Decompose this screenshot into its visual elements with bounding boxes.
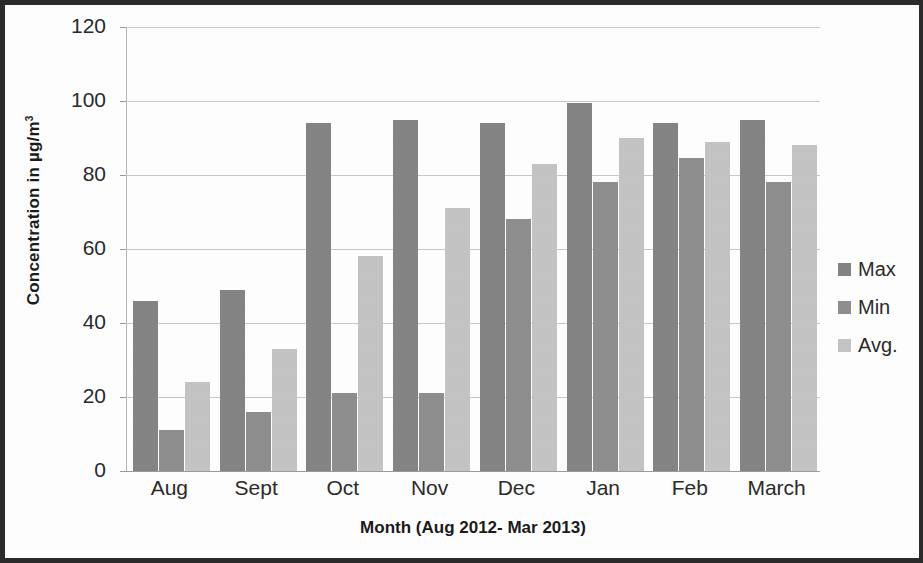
x-axis-tick-label-sept: Sept <box>213 476 300 500</box>
legend-item-min[interactable]: Min <box>838 288 918 326</box>
bar-feb-min[interactable] <box>679 158 704 471</box>
figure-border-top <box>0 0 923 5</box>
y-axis-tick-mark <box>120 471 126 472</box>
x-axis-tick-label-feb: Feb <box>647 476 734 500</box>
chart-legend: MaxMinAvg. <box>838 250 918 364</box>
bar-aug-min[interactable] <box>159 430 184 471</box>
x-axis-tick-label-aug: Aug <box>126 476 213 500</box>
y-axis-tick-labels: 020406080100120 <box>60 27 106 472</box>
y-axis-tick-mark <box>120 397 126 398</box>
bar-feb-max[interactable] <box>653 123 678 471</box>
y-axis-tick-label: 60 <box>60 236 106 260</box>
x-axis-tick-labels: AugSeptOctNovDecJanFebMarch <box>126 476 820 510</box>
bar-oct-avg[interactable] <box>358 256 383 471</box>
bar-oct-min[interactable] <box>332 393 357 471</box>
gridline <box>126 471 820 472</box>
bar-dec-max[interactable] <box>480 123 505 471</box>
y-axis-tick-label: 80 <box>60 162 106 186</box>
bar-aug-max[interactable] <box>133 301 158 471</box>
bar-march-max[interactable] <box>740 120 765 472</box>
figure-border-right <box>919 0 923 563</box>
legend-label: Min <box>858 297 890 317</box>
y-axis-tick-mark <box>120 323 126 324</box>
plot-area <box>126 27 820 471</box>
bar-group-nov <box>393 27 470 471</box>
legend-swatch-icon <box>838 301 851 314</box>
figure-border-left <box>0 0 5 563</box>
bar-group-jan <box>567 27 644 471</box>
y-axis-tick-mark <box>120 27 126 28</box>
x-axis-title: Month (Aug 2012- Mar 2013) <box>126 518 820 538</box>
bar-group-dec <box>480 27 557 471</box>
bar-group-feb <box>653 27 730 471</box>
legend-swatch-icon <box>838 263 851 276</box>
legend-item-avg[interactable]: Avg. <box>838 326 918 364</box>
bar-chart-figure: Concentration in µg/m3 020406080100120 A… <box>0 0 923 563</box>
bar-nov-max[interactable] <box>393 120 418 472</box>
bar-nov-avg[interactable] <box>445 208 470 471</box>
y-axis-title: Concentration in µg/m3 <box>24 10 45 410</box>
y-axis-tick-label: 120 <box>60 14 106 38</box>
bar-group-oct <box>306 27 383 471</box>
y-axis-tick-label: 20 <box>60 384 106 408</box>
x-axis-tick-label-dec: Dec <box>473 476 560 500</box>
x-axis-tick-label-nov: Nov <box>386 476 473 500</box>
bar-jan-avg[interactable] <box>619 138 644 471</box>
bar-jan-min[interactable] <box>593 182 618 471</box>
bar-sept-avg[interactable] <box>272 349 297 471</box>
x-axis-tick-label-march: March <box>733 476 820 500</box>
bar-feb-avg[interactable] <box>705 142 730 471</box>
bar-march-avg[interactable] <box>792 145 817 471</box>
y-axis-tick-mark <box>120 249 126 250</box>
y-axis-title-text: Concentration in µg/m <box>24 121 43 305</box>
legend-label: Avg. <box>858 335 898 355</box>
bar-dec-min[interactable] <box>506 219 531 471</box>
legend-label: Max <box>858 259 896 279</box>
x-axis-tick-label-oct: Oct <box>300 476 387 500</box>
bar-oct-max[interactable] <box>306 123 331 471</box>
figure-border-bottom <box>0 558 923 563</box>
y-axis-title-exponent: 3 <box>24 115 35 121</box>
bar-march-min[interactable] <box>766 182 791 471</box>
bar-nov-min[interactable] <box>419 393 444 471</box>
bar-sept-min[interactable] <box>246 412 271 471</box>
bar-sept-max[interactable] <box>220 290 245 471</box>
legend-swatch-icon <box>838 339 851 352</box>
legend-item-max[interactable]: Max <box>838 250 918 288</box>
y-axis-tick-label: 40 <box>60 310 106 334</box>
bar-group-march <box>740 27 817 471</box>
y-axis-tick-mark <box>120 101 126 102</box>
y-axis-tick-label: 100 <box>60 88 106 112</box>
bar-group-aug <box>133 27 210 471</box>
bar-aug-avg[interactable] <box>185 382 210 471</box>
x-axis-tick-label-jan: Jan <box>560 476 647 500</box>
bar-group-sept <box>220 27 297 471</box>
y-axis-tick-label: 0 <box>60 458 106 482</box>
bar-dec-avg[interactable] <box>532 164 557 471</box>
bar-jan-max[interactable] <box>567 103 592 471</box>
y-axis-tick-mark <box>120 175 126 176</box>
